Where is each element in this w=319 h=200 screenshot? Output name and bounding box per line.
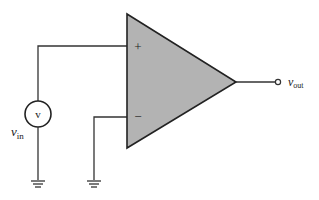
minus-sign: −	[134, 109, 141, 124]
ground-icon	[87, 181, 101, 187]
opamp-circuit-diagram: v vin + − vout	[0, 0, 319, 200]
plus-sign: +	[134, 39, 141, 54]
source-symbol: v	[35, 108, 41, 120]
opamp-triangle	[127, 14, 236, 148]
inverting-input-wire	[94, 117, 127, 180]
output-terminal	[275, 79, 280, 84]
noninverting-input-wire	[38, 46, 127, 101]
vout-label: vout	[288, 75, 304, 90]
vin-label: vin	[11, 124, 24, 141]
ground-icon	[31, 181, 45, 187]
